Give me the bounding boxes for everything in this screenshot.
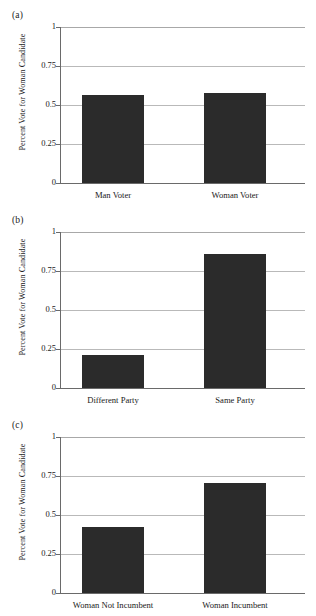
- panel-c-gridline-075: [60, 476, 305, 477]
- panel-a-ytick-label-075: 0.75: [41, 60, 56, 70]
- panel-c-ytick-025: 0.25: [60, 554, 61, 555]
- panel-b-plot-area: 0 0.25 0.5 0.75 1 Different Party Same P…: [60, 232, 305, 388]
- panel-b: (b) Percent Vote for Woman Candidate 0 0…: [0, 207, 316, 412]
- panel-a-gridline-1: [60, 27, 305, 28]
- panel-b-ytick-075: 0.75: [60, 271, 61, 272]
- panel-b-ytick-025: 0.25: [60, 349, 61, 350]
- panel-c-plot-area: 0 0.25 0.5 0.75 1 Woman Not Incumbent Wo…: [60, 437, 305, 593]
- panel-c-ytick-1: 1: [60, 437, 61, 438]
- panel-c-ytick-label-0: 0: [52, 587, 56, 597]
- panel-b-ytick-05: 0.5: [60, 310, 61, 311]
- panel-a-x-axis-spine: [60, 183, 305, 184]
- panel-c-ytick-label-025: 0.25: [41, 548, 56, 558]
- panel-c-gridline-1: [60, 437, 305, 438]
- panel-c-ytick-0: 0: [60, 593, 61, 594]
- panel-b-x-axis-spine: [60, 388, 305, 389]
- panel-c-gridline-05: [60, 515, 305, 516]
- panel-a-ytick-075: 0.75: [60, 66, 61, 67]
- panel-a-plot-area: 0 0.25 0.5 0.75 1 Man Voter Woman Voter: [60, 27, 305, 183]
- panel-a-ytick-1: 1: [60, 27, 61, 28]
- figure-three-panel-bar-charts: (a) Percent Vote for Woman Candidate 0 0…: [0, 0, 316, 616]
- panel-c-xlabel-0: Woman Not Incumbent: [63, 600, 163, 610]
- panel-b-ytick-0: 0: [60, 388, 61, 389]
- panel-a-ytick-05: 0.5: [60, 105, 61, 106]
- panel-c-ytick-label-05: 0.5: [45, 509, 56, 519]
- panel-a-xlabel-1: Woman Voter: [185, 190, 285, 200]
- panel-c-x-axis-spine: [60, 593, 305, 594]
- panel-b-ytick-label-075: 0.75: [41, 265, 56, 275]
- panel-b-gridline-075: [60, 271, 305, 272]
- panel-b-gridline-025: [60, 349, 305, 350]
- panel-c-ytick-label-1: 1: [52, 431, 56, 441]
- panel-a-ytick-label-0: 0: [52, 177, 56, 187]
- panel-a-ytick-label-05: 0.5: [45, 99, 56, 109]
- panel-b-ytick-label-1: 1: [52, 226, 56, 236]
- panel-c-ytick-label-075: 0.75: [41, 470, 56, 480]
- panel-c-ytick-05: 0.5: [60, 515, 61, 516]
- panel-a-bar-0: [82, 95, 144, 183]
- panel-b-ytick-label-05: 0.5: [45, 304, 56, 314]
- panel-a-gridline-075: [60, 66, 305, 67]
- panel-c-ytick-075: 0.75: [60, 476, 61, 477]
- panel-c-y-axis-title: Percent Vote for Woman Candidate: [19, 427, 27, 577]
- panel-a: (a) Percent Vote for Woman Candidate 0 0…: [0, 2, 316, 207]
- panel-b-xlabel-0: Different Party: [63, 395, 163, 405]
- panel-a-ytick-025: 0.25: [60, 144, 61, 145]
- panel-c-bar-0: [82, 527, 144, 593]
- panel-b-ytick-label-025: 0.25: [41, 343, 56, 353]
- panel-b-xlabel-1: Same Party: [185, 395, 285, 405]
- panel-c-bar-1: [204, 483, 266, 593]
- panel-b-ytick-label-0: 0: [52, 382, 56, 392]
- panel-b-bar-1: [204, 254, 266, 388]
- panel-a-ytick-label-1: 1: [52, 21, 56, 31]
- panel-a-bar-1: [204, 93, 266, 183]
- panel-c-xlabel-1: Woman Incumbent: [185, 600, 285, 610]
- panel-b-y-axis-title: Percent Vote for Woman Candidate: [19, 222, 27, 372]
- panel-b-bar-0: [82, 355, 144, 388]
- panel-b-ytick-1: 1: [60, 232, 61, 233]
- panel-a-ytick-0: 0: [60, 183, 61, 184]
- panel-b-gridline-1: [60, 232, 305, 233]
- panel-a-xlabel-0: Man Voter: [63, 190, 163, 200]
- panel-a-ytick-label-025: 0.25: [41, 138, 56, 148]
- panel-c: (c) Percent Vote for Woman Candidate 0 0…: [0, 412, 316, 616]
- panel-a-y-axis-title: Percent Vote for Woman Candidate: [19, 17, 27, 167]
- panel-b-gridline-05: [60, 310, 305, 311]
